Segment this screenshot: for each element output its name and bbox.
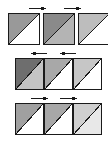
diagram-top-row [8, 6, 108, 45]
direction-arrow-right [60, 96, 77, 100]
direction-arrow-right [31, 96, 48, 100]
direction-arrow-left [31, 51, 47, 55]
direction-arrow-left [60, 51, 76, 55]
arrow-head [72, 96, 77, 100]
direction-arrow-right [29, 6, 46, 10]
diagram-figure [0, 0, 108, 145]
arrow-head [31, 51, 36, 55]
split-square [73, 58, 102, 90]
arrow-head [76, 6, 81, 10]
split-square [15, 103, 44, 135]
arrow-head [60, 51, 65, 55]
diagram-canvas [0, 0, 108, 145]
split-square [78, 13, 108, 45]
arrow-head [41, 6, 46, 10]
split-square [8, 13, 40, 45]
direction-arrow-right [64, 6, 81, 10]
split-square [44, 103, 73, 135]
split-square [43, 13, 75, 45]
split-square [15, 58, 44, 90]
arrow-head [43, 96, 48, 100]
split-square [44, 58, 73, 90]
diagram-bottom-row [15, 96, 102, 135]
diagram-middle-row [15, 51, 102, 90]
split-square [73, 103, 102, 135]
